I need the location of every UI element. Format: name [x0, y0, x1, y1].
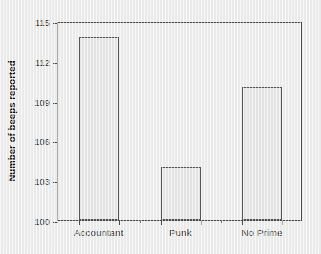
x-axis-tick [119, 220, 120, 225]
y-axis-title: Number of beeps reported [6, 60, 17, 181]
y-axis-tick-label: 103 [34, 177, 50, 187]
y-axis-tick [53, 23, 58, 24]
y-axis-tick [53, 103, 58, 104]
plot-area: 100103106109112115 AccountantPunkNo Prim… [57, 22, 302, 221]
x-axis-minor-tick [221, 220, 222, 223]
x-axis-tick [161, 220, 162, 225]
x-axis-tick [242, 220, 243, 225]
x-axis-tick [79, 220, 80, 225]
x-axis-category-label: Punk [169, 227, 191, 238]
x-axis-category-label: Accountant [74, 227, 124, 238]
y-axis-tick [53, 182, 58, 183]
y-axis-tick-label: 112 [35, 58, 50, 68]
y-axis-tick-label: 109 [34, 98, 50, 108]
bar [161, 167, 201, 220]
bar [242, 87, 282, 220]
x-axis-category-label: No Prime [242, 227, 283, 238]
x-axis-tick [282, 220, 283, 225]
bar [79, 37, 119, 220]
x-axis-tick [201, 220, 202, 225]
y-axis-tick-label: 106 [34, 137, 50, 147]
y-axis-tick-label: 100 [34, 217, 50, 227]
y-axis-tick [53, 222, 58, 223]
y-axis-tick [53, 142, 58, 143]
bar-chart: Number of beeps reported 100103106109112… [0, 0, 321, 254]
y-axis-tick-label: 115 [35, 18, 50, 28]
y-axis-tick [53, 63, 58, 64]
x-axis-minor-tick [140, 220, 141, 223]
